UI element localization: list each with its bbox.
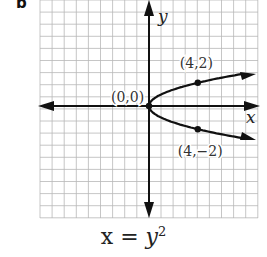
x-axis-label: x <box>246 107 256 127</box>
equation-exponent: 2 <box>158 224 166 239</box>
point-label: (4,−2) <box>178 143 223 159</box>
point-marker <box>195 80 201 86</box>
y-axis-up-arrow-icon <box>144 0 154 16</box>
point-label: (0,0) <box>111 89 144 105</box>
y-axis-label: y <box>157 6 168 26</box>
point-label: (4,2) <box>180 55 213 71</box>
equation-caption: x = y2 <box>0 224 267 249</box>
curve-upper-arrow-icon <box>240 72 256 80</box>
equation-lhs: x <box>101 224 113 249</box>
x-axis-left-arrow-icon <box>38 101 54 111</box>
point-marker <box>146 103 152 109</box>
graph-plot: (0,0)(4,2)(4,−2) y x <box>0 0 267 222</box>
point-marker <box>195 126 201 132</box>
y-axis-down-arrow-icon <box>144 202 154 218</box>
equation-equals: = <box>113 224 145 249</box>
equation-base: y <box>146 224 158 249</box>
